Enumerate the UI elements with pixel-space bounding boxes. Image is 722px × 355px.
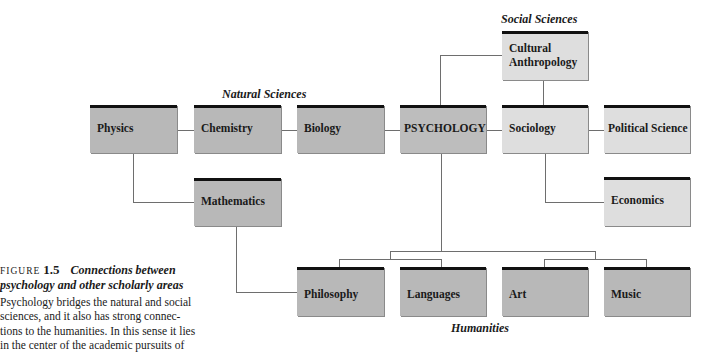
caption-body-line: sciences, and it also has strong connec-: [0, 309, 290, 323]
connector-physics-chemistry: [177, 130, 194, 131]
connector-psychology-sociology: [486, 130, 502, 131]
node-cultural-anthropology: Cultural Anthropology: [502, 31, 588, 80]
group-label-humanities: Humanities: [451, 321, 509, 336]
node-label: Political Science: [608, 122, 688, 135]
connector-bar-right-drop: [595, 251, 596, 259]
node-label: Chemistry: [201, 122, 253, 135]
node-label-line1: Cultural: [509, 42, 551, 55]
connector-languages-drop: [441, 259, 442, 267]
connector-sociology-econ-h: [545, 202, 604, 203]
group-label-social-sciences: Social Sciences: [501, 12, 577, 27]
node-chemistry: Chemistry: [194, 105, 281, 153]
node-label: Philosophy: [304, 288, 358, 301]
caption-heading: FIGURE 1.5 Connections between psycholog…: [0, 263, 290, 292]
connector-psych-anthro-v: [440, 55, 441, 105]
caption-body-line: in the center of the academic pursuits o…: [0, 338, 290, 352]
node-label: Sociology: [509, 122, 556, 135]
caption-body-line: tions to the humanities. In this sense i…: [0, 324, 290, 338]
connector-humanities-bar-top: [390, 251, 595, 252]
caption-title-line2: psychology and other scholarly areas: [0, 278, 183, 292]
node-psychology: PSYCHOLOGY: [400, 105, 486, 153]
caption-figure-label: FIGURE: [0, 266, 40, 276]
caption-figure-number: 1.5: [43, 262, 59, 277]
caption-body-line: Psychology bridges the natural and socia…: [0, 295, 290, 309]
node-label: PSYCHOLOGY: [404, 122, 486, 135]
node-label-line2: Anthropology: [509, 56, 577, 69]
connector-anthro-sociology: [543, 80, 544, 105]
connector-art-drop: [544, 259, 545, 267]
connector-art-music-bar: [544, 259, 647, 260]
node-label: Biology: [304, 122, 341, 135]
node-art: Art: [502, 267, 588, 316]
figure-caption: FIGURE 1.5 Connections between psycholog…: [0, 263, 290, 352]
node-languages: Languages: [400, 267, 486, 316]
node-political-science: Political Science: [604, 105, 690, 153]
connector-physics-math-h: [133, 202, 194, 203]
connector-sociology-econ-v: [545, 153, 546, 202]
node-label: Languages: [407, 288, 460, 301]
node-physics: Physics: [90, 105, 177, 153]
connector-biology-psychology: [384, 130, 400, 131]
caption-title-line1: Connections between: [71, 263, 176, 277]
connector-philosophy-languages-bar: [339, 259, 441, 260]
node-label: Mathematics: [201, 195, 265, 208]
connector-physics-math-v: [133, 153, 134, 202]
connector-sociology-politicalscience: [588, 130, 604, 131]
node-label: Art: [509, 288, 526, 301]
node-mathematics: Mathematics: [194, 178, 281, 226]
node-label: Music: [611, 288, 641, 301]
node-sociology: Sociology: [502, 105, 588, 153]
connector-philosophy-drop: [339, 259, 340, 267]
node-label: Economics: [611, 194, 664, 207]
group-label-natural-sciences: Natural Sciences: [222, 87, 306, 102]
connector-bar-left-drop: [390, 251, 391, 259]
node-music: Music: [604, 267, 690, 316]
node-philosophy: Philosophy: [297, 267, 384, 316]
caption-body: Psychology bridges the natural and socia…: [0, 295, 290, 352]
connector-music-drop: [646, 259, 647, 267]
node-biology: Biology: [297, 105, 384, 153]
node-economics: Economics: [604, 177, 690, 226]
connector-chemistry-biology: [281, 130, 297, 131]
connector-psych-humanities-v: [441, 153, 442, 251]
node-label: Physics: [97, 122, 133, 135]
connector-psych-anthro-h: [440, 55, 502, 56]
